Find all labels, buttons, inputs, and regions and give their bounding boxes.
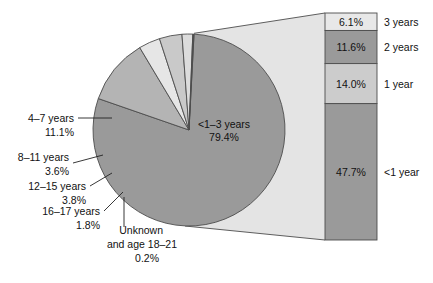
exploded-stacked-bar: 6.1% 11.6% 14.0% 47.7% 3 years 2 years 1…	[325, 13, 420, 240]
slice-label-16-17-years-category: 16–17 years	[42, 205, 100, 217]
slice-label-12-15-years-category: 12–15 years	[28, 180, 86, 192]
slice-label-12-15-years: 12–15 years 3.8%	[28, 180, 86, 206]
slice-label-unknown-line2: and age 18–21	[107, 238, 177, 250]
slice-label-4-7-years-category: 4–7 years	[28, 112, 74, 124]
pie-with-exploded-bar-chart: <1–3 years 79.4% 4–7 years 11.1% 8–11 ye…	[0, 0, 433, 283]
bar-value-1-year: 14.0%	[336, 78, 366, 90]
slice-label-unknown-line1: Unknown	[119, 224, 163, 236]
pie-center-label-value: 79.4%	[209, 131, 239, 143]
slice-label-8-11-years-category: 8–11 years	[18, 151, 69, 163]
leader-line-16-17-years	[104, 192, 123, 211]
bar-value-under-1-year: 47.7%	[336, 166, 366, 178]
slice-label-unknown: Unknown and age 18–21 0.2%	[107, 224, 177, 264]
bar-category-3-years: 3 years	[384, 16, 418, 28]
slice-label-8-11-years-value: 3.6%	[45, 165, 69, 177]
slice-label-16-17-years-value: 1.8%	[76, 219, 100, 231]
chart-figure: <1–3 years 79.4% 4–7 years 11.1% 8–11 ye…	[0, 0, 433, 283]
bar-category-under-1-year: <1 year	[384, 166, 420, 178]
bar-value-3-years: 6.1%	[339, 16, 363, 28]
bar-category-1-year: 1 year	[384, 78, 414, 90]
pie-center-label-category: <1–3 years	[198, 118, 250, 130]
bar-category-2-years: 2 years	[384, 41, 418, 53]
slice-label-16-17-years: 16–17 years 1.8%	[42, 205, 100, 231]
slice-label-4-7-years-value: 11.1%	[45, 126, 74, 138]
slice-label-4-7-years: 4–7 years 11.1%	[28, 112, 74, 138]
slice-label-8-11-years: 8–11 years 3.6%	[18, 151, 69, 177]
slice-label-unknown-value: 0.2%	[135, 252, 159, 264]
bar-value-2-years: 11.6%	[337, 41, 366, 53]
